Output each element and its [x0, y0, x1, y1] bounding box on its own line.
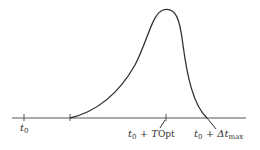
label-t0: t0: [20, 122, 29, 135]
label-t-max: t0 + Δtmax: [194, 128, 243, 141]
label-t0-sub: 0: [24, 127, 28, 135]
pointer-t-opt: [160, 120, 165, 128]
label-t-max-plus: +: [203, 128, 218, 139]
label-t-max-var: Δt: [217, 128, 228, 139]
response-curve: [70, 9, 207, 118]
label-t-opt: t0 + TOpt: [128, 128, 175, 141]
label-t-opt-var: T: [151, 128, 158, 139]
label-t-max-var-sub: max: [229, 133, 244, 141]
label-t-opt-plus: +: [137, 128, 152, 139]
label-t-opt-var-sub: Opt: [158, 129, 175, 139]
